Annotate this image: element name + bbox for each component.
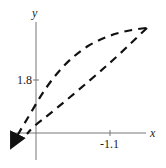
x-tick-label: -1.1: [100, 137, 119, 151]
y-axis-label: y: [31, 6, 38, 20]
chart: y x 1.8 -1.1: [0, 0, 166, 168]
x-axis-label: x: [149, 126, 156, 140]
upper-curve: [14, 28, 146, 142]
y-tick-label: 1.8: [17, 73, 32, 87]
lower-curve: [27, 28, 147, 134]
